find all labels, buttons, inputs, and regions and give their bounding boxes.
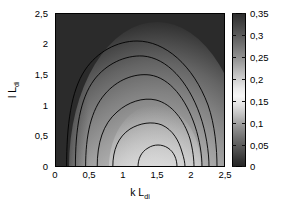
colorbar-label-0: 0,35 (250, 9, 269, 19)
colorbar-label-2: 0,25 (250, 53, 269, 63)
x-axis-title: k Ldi (55, 187, 225, 200)
colorbar-label-3: 0,2 (250, 75, 263, 85)
colorbar-tick-left-0_3 (232, 35, 236, 36)
y-axis-title-main: l L (6, 87, 18, 98)
colorbar-label-7: 0 (250, 162, 255, 172)
ytick-label-1: 2 (18, 39, 48, 49)
ytick-label-4: 0,5 (18, 131, 48, 141)
colorbar-tick-0_35 (242, 13, 246, 14)
contour-plot-svg (55, 13, 225, 167)
colorbar-tick-left-0_15 (232, 101, 236, 102)
colorbar-label-4: 0,15 (250, 97, 269, 107)
y-axis-title-subscript: di (12, 81, 21, 87)
ytick-label-3: 1 (18, 101, 48, 111)
colorbar-label-6: 0,05 (250, 141, 269, 151)
colorbar-tick-0_05 (242, 145, 246, 146)
colorbar-tick-left-0_05 (232, 145, 236, 146)
xtick-label-0: 0 (44, 170, 66, 180)
colorbar-tick-left-0_35 (232, 13, 236, 14)
ytick-label-2: 1,5 (18, 70, 48, 80)
y-axis-title: l Ldi (7, 50, 20, 130)
colorbar-tick-left-0_2 (232, 79, 236, 80)
xtick-label-2: 1 (112, 170, 134, 180)
contour-plot-area (55, 13, 225, 167)
colorbar-tick-0_1 (242, 123, 246, 124)
colorbar-tick-marks (232, 13, 246, 167)
figure-container: 2,5 2 1,5 1 0,5 0 0 0,5 1 1,5 2 2,5 k Ld… (0, 0, 284, 207)
xtick-label-1: 0,5 (78, 170, 100, 180)
colorbar-label-1: 0,3 (250, 31, 263, 41)
colorbar-tick-left-0_1 (232, 123, 236, 124)
colorbar-tick-left-0_25 (232, 57, 236, 58)
ytick-label-0: 2,5 (18, 9, 48, 19)
colorbar-label-5: 0,1 (250, 119, 263, 129)
colorbar-tick-0_15 (242, 101, 246, 102)
colorbar-tick-0 (242, 166, 246, 167)
xtick-label-5: 2,5 (214, 170, 236, 180)
x-axis-title-main: k L (130, 186, 144, 198)
xtick-label-3: 1,5 (146, 170, 168, 180)
x-axis-title-subscript: di (144, 192, 150, 201)
colorbar-tick-0_3 (242, 35, 246, 36)
colorbar-tick-0_25 (242, 57, 246, 58)
colorbar-tick-0_2 (242, 79, 246, 80)
xtick-label-4: 2 (180, 170, 202, 180)
colorbar (232, 13, 246, 167)
colorbar-tick-left-0 (232, 166, 236, 167)
